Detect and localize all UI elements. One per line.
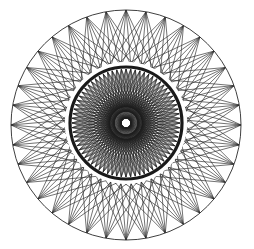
string-art-figure: String Art Mandala Circular spirograph /…: [0, 0, 254, 249]
figure-root: String Art Mandala Circular spirograph /…: [0, 0, 254, 249]
